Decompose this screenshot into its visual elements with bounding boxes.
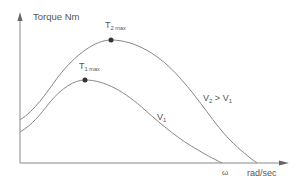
t1-max-point: [83, 78, 88, 83]
torque-speed-diagram: [0, 0, 298, 185]
v2-curve-label: V2 > V1: [203, 94, 232, 104]
x-axis-unit: rad/sec: [247, 169, 277, 178]
v2-b-sub: 1: [229, 98, 232, 104]
t2-max-point: [109, 38, 114, 43]
t2-max-label: T2 max: [105, 21, 126, 32]
y-axis-label: Torque Nm: [33, 12, 79, 22]
t2-sub-text: max: [114, 25, 126, 31]
y-axis-arrow-icon: [18, 12, 23, 21]
x-axis-symbol: ω: [222, 169, 228, 177]
t1-max-label: T1 max: [79, 62, 100, 73]
v1-curve-label: V1: [157, 113, 166, 123]
x-axis-arrow-icon: [279, 161, 289, 166]
v2-op: >: [212, 93, 222, 103]
t1-sub-text: max: [88, 66, 100, 72]
v1-a-sub: 1: [163, 117, 166, 123]
